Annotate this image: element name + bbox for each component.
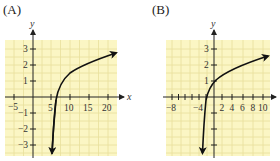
svg-text:10: 10 [258,103,268,113]
svg-text:−8: −8 [166,103,176,113]
svg-text:4: 4 [230,103,235,113]
chart-b-y-tick-labels: 3 2 1 [204,44,209,86]
svg-text:20: 20 [102,103,112,113]
svg-text:5: 5 [48,103,53,113]
svg-text:−5: −5 [8,102,18,112]
svg-text:15: 15 [83,103,93,113]
chart-b-y-axis-label: y [210,18,216,29]
svg-text:2: 2 [23,60,28,70]
svg-text:2: 2 [220,103,225,113]
svg-text:8: 8 [251,103,256,113]
chart-a-y-axis-label: y [29,18,35,29]
chart-a: x y −5 5 10 15 20 3 2 1 −1 [5,18,132,158]
charts-canvas: x y −5 5 10 15 20 3 2 1 −1 [0,0,280,161]
svg-text:−2: −2 [18,124,28,134]
chart-b-plot-area [166,40,270,156]
svg-text:3: 3 [204,44,209,54]
chart-b: y −8 −4 2 4 6 8 10 [163,18,276,158]
svg-text:1: 1 [23,76,28,86]
chart-a-x-axis-label: x [126,91,132,102]
svg-text:−3: −3 [18,140,28,150]
svg-text:−4: −4 [193,103,203,113]
svg-text:10: 10 [64,103,74,113]
chart-a-plot-area [5,40,117,156]
svg-text:3: 3 [23,44,28,54]
svg-text:2: 2 [204,60,209,70]
svg-text:−1: −1 [18,108,28,118]
svg-text:6: 6 [240,103,245,113]
svg-text:1: 1 [204,76,209,86]
